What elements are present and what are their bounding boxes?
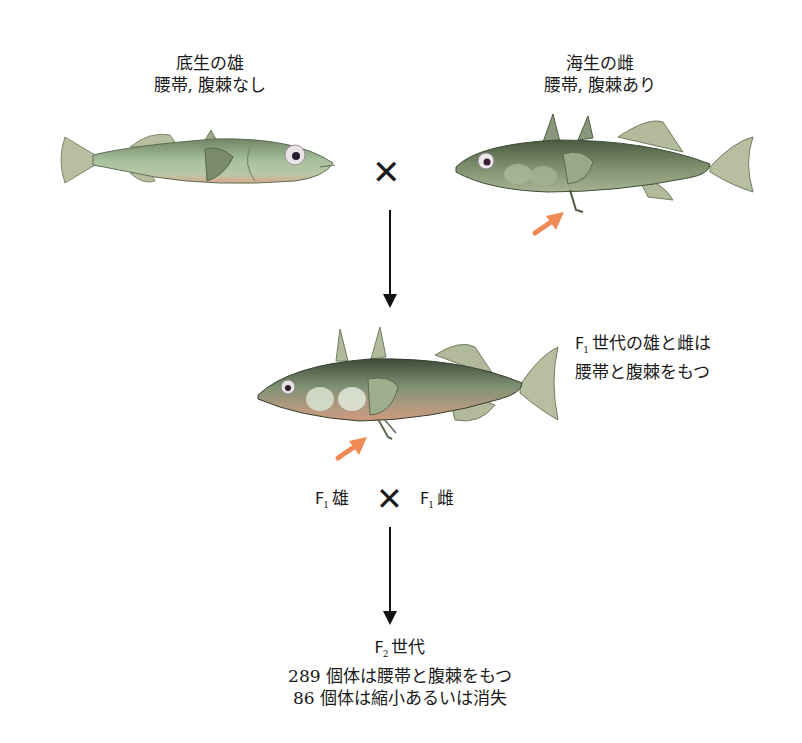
flow-arrow-f1-to-f2 <box>380 527 400 627</box>
pelvic-spine-pointer-arrow-female <box>532 210 566 236</box>
flow-arrow-parents-to-f1 <box>380 210 400 310</box>
female-parent-description: 腰帯, 腹棘あり <box>505 74 695 96</box>
f1-caption: F1世代の雄と雌は 腰帯と腹棘をもつ <box>575 332 711 383</box>
male-parent-title: 底生の雄 <box>120 52 300 74</box>
f1-caption-line1: F1世代の雄と雌は <box>575 332 711 361</box>
marine-female-fish <box>448 112 763 217</box>
f2-caption: F2世代 289 個体は腰帯と腹棘をもつ 86 個体は縮小あるいは消失 <box>240 636 560 709</box>
benthic-male-fish <box>55 125 340 195</box>
male-parent-description: 腰帯, 腹棘なし <box>120 74 300 96</box>
female-parent-label: 海生の雌 腰帯, 腹棘あり <box>505 52 695 96</box>
f1-female-label: F1雌 <box>420 487 454 516</box>
f1-caption-line2: 腰帯と腹棘をもつ <box>575 361 711 383</box>
female-parent-title: 海生の雌 <box>505 52 695 74</box>
f1-cross-symbol: ✕ <box>376 480 403 518</box>
f2-title: F2世代 <box>240 636 560 665</box>
f1-male-label: F1雄 <box>315 487 349 516</box>
male-parent-label: 底生の雄 腰帯, 腹棘なし <box>120 52 300 96</box>
f2-result-reduced: 86 個体は縮小あるいは消失 <box>240 687 560 709</box>
pelvic-spine-pointer-arrow-f1 <box>335 435 369 461</box>
parent-cross-symbol: ✕ <box>372 152 401 192</box>
f1-hybrid-fish <box>250 325 560 440</box>
f2-result-with-spines: 289 個体は腰帯と腹棘をもつ <box>240 665 560 687</box>
